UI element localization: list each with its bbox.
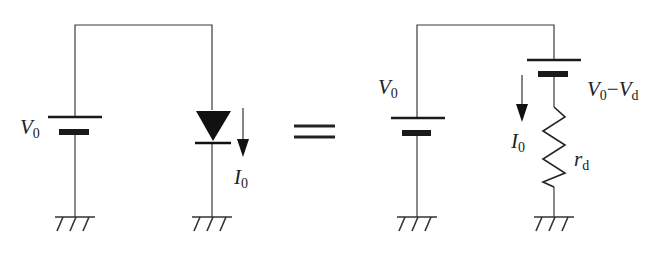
ground-right-source-icon (397, 217, 437, 231)
equivalent-circuit-diagram: V0 I0 (0, 0, 666, 255)
ground-right-resistor-icon (534, 217, 574, 231)
label-i0-right: I0 (510, 129, 525, 155)
label-v0-right: V0 (378, 75, 398, 101)
ground-left-source-icon (55, 217, 95, 231)
right-circuit: V0 V0−Vd rd I0 (378, 25, 639, 231)
ground-left-diode-icon (192, 217, 232, 231)
equals-sign (294, 126, 335, 137)
right-top-wire (417, 25, 554, 118)
current-arrow-left-icon (237, 108, 249, 157)
current-arrow-right-icon (516, 75, 528, 122)
battery-v0-minus-vd (527, 60, 581, 74)
diode-icon (195, 111, 231, 143)
resistor-icon (543, 107, 565, 187)
label-i0-left: I0 (233, 165, 248, 191)
left-circuit: V0 I0 (20, 25, 249, 231)
left-top-wire (75, 25, 212, 117)
battery-v0-left (48, 117, 102, 132)
label-v0-left: V0 (20, 115, 40, 141)
battery-v0-right (391, 118, 445, 133)
label-v0-minus-vd: V0−Vd (587, 77, 639, 103)
label-rd: rd (574, 147, 589, 173)
